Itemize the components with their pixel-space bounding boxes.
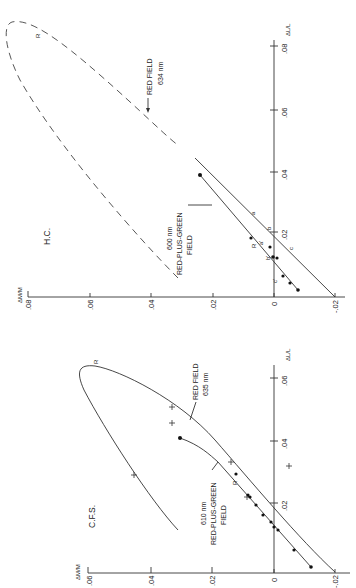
hc-ytick: 0 bbox=[270, 302, 279, 306]
cfs-x-ticks: .02 .04 .06 bbox=[270, 376, 289, 511]
cfs-rpg-label: RED-PLUS-GREEN bbox=[210, 482, 217, 545]
hc-label-r2: R bbox=[251, 243, 257, 248]
hc-ytick: .02 bbox=[209, 300, 218, 310]
hc-label-b: b bbox=[266, 226, 272, 230]
cfs-rpg-field: FIELD bbox=[220, 505, 227, 525]
cfs-rpg-nm: 610 nm bbox=[200, 501, 207, 525]
hc-y-ticks: .08 .06 .04 .02 0 -.02 bbox=[24, 291, 340, 313]
cfs-ytick: .02 bbox=[208, 576, 217, 586]
cfs-xtick: .02 bbox=[280, 501, 289, 511]
hc-rpg-label: RED-PLUS-GREEN bbox=[176, 212, 183, 275]
cfs-ytick: .04 bbox=[147, 576, 156, 586]
cfs-data-points bbox=[178, 436, 313, 569]
figure: .08 .06 .04 .02 0 -.02 ΔM/M .02 .04 .06 … bbox=[0, 0, 356, 588]
hc-red-field-label: RED FIELD bbox=[146, 58, 153, 95]
hc-label-a: a bbox=[250, 211, 256, 215]
hc-xtick: .06 bbox=[280, 108, 289, 118]
hc-label-a-prime: a' bbox=[258, 241, 264, 245]
cfs-y-axis-label: ΔM/M bbox=[75, 564, 81, 580]
hc-rpg-field: FIELD bbox=[186, 235, 193, 255]
cfs-label-r2: R bbox=[232, 480, 238, 485]
hc-xtick: .02 bbox=[280, 230, 289, 240]
cfs-x-axis-label: ΔL/L bbox=[285, 348, 291, 361]
hc-upper-line bbox=[195, 158, 335, 297]
hc-xtick: .04 bbox=[280, 170, 289, 180]
hc-x-ticks: .02 .04 .06 .08 bbox=[270, 44, 289, 240]
hc-y-axis-label: ΔM/M bbox=[17, 287, 23, 303]
cfs-red-field-label: RED FIELD bbox=[192, 363, 199, 400]
cfs-ytick: -.02 bbox=[331, 575, 340, 588]
cfs-xtick: .04 bbox=[280, 439, 289, 449]
hc-rpg-nm: 600 nm bbox=[166, 226, 173, 250]
hc-label-b-prime: b' bbox=[265, 256, 271, 260]
hc-xtick: .08 bbox=[280, 44, 289, 54]
cfs-ytick: 0 bbox=[270, 578, 279, 582]
cfs-red-field-nm: 635 nm bbox=[202, 372, 209, 396]
hc-x-axis-label: ΔL/L bbox=[285, 23, 291, 36]
cfs-ytick: .06 bbox=[85, 576, 94, 586]
hc-label-r: R bbox=[35, 33, 41, 38]
cfs-red-field-pointer bbox=[190, 402, 196, 420]
hc-ytick: .06 bbox=[86, 300, 95, 310]
panel-cfs: .06 .04 .02 0 -.02 ΔM/M .02 .04 .06 ΔL/L… bbox=[75, 348, 350, 588]
hc-ytick: .04 bbox=[147, 300, 156, 310]
hc-ytick: .08 bbox=[24, 300, 33, 310]
panel-hc: .08 .06 .04 .02 0 -.02 ΔM/M .02 .04 .06 … bbox=[6, 22, 345, 313]
cfs-y-ticks: .06 .04 .02 0 -.02 bbox=[85, 567, 340, 588]
hc-red-field-nm: 634 nm bbox=[157, 61, 164, 85]
hc-label-c: c bbox=[288, 247, 294, 250]
cfs-title: C.F.S. bbox=[87, 505, 97, 528]
hc-label-c-prime: c' bbox=[272, 279, 278, 283]
cfs-rpg-pointer bbox=[212, 462, 218, 470]
hc-ytick: -.02 bbox=[331, 300, 340, 313]
hc-title: H.C. bbox=[42, 228, 52, 245]
cfs-label-r: R bbox=[93, 359, 99, 364]
cfs-xtick: .06 bbox=[280, 376, 289, 386]
